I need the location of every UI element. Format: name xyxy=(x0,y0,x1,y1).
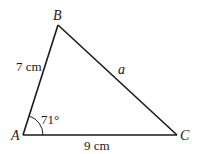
side-bc xyxy=(58,25,177,135)
vertex-label-b: B xyxy=(53,8,62,23)
vertex-label-c: C xyxy=(180,128,190,143)
angle-label-a: 71° xyxy=(41,112,59,127)
vertex-label-a: A xyxy=(10,128,20,143)
side-label-ac: 9 cm xyxy=(84,138,110,153)
side-label-ab: 7 cm xyxy=(16,59,42,74)
side-label-bc: a xyxy=(118,62,125,77)
triangle-diagram: A B C 7 cm 9 cm a 71° xyxy=(0,0,197,154)
